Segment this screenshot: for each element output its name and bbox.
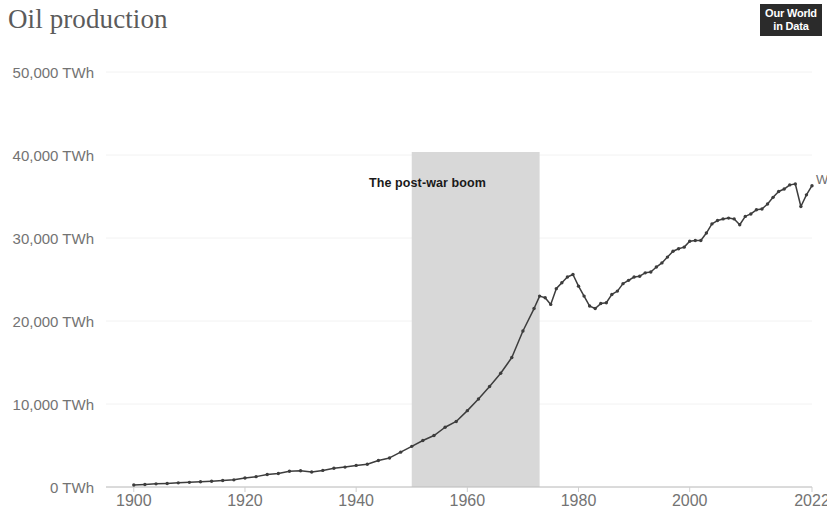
annotation-post-war-boom-label: The post-war boom bbox=[369, 176, 486, 190]
y-axis-label: 30,000 TWh bbox=[13, 230, 94, 247]
x-axis-label: 1960 bbox=[450, 492, 486, 510]
x-axis-label: 1900 bbox=[116, 492, 152, 510]
x-axis-label: 1940 bbox=[338, 492, 374, 510]
chart-page: Oil production Our World in Data 0 TWh10… bbox=[0, 0, 827, 515]
y-axis-label: 50,000 TWh bbox=[13, 64, 94, 81]
x-axis-label: 2000 bbox=[672, 492, 708, 510]
y-axis-label: 40,000 TWh bbox=[13, 147, 94, 164]
x-axis-label: 2022 bbox=[794, 492, 827, 510]
series-label-world: World bbox=[816, 172, 827, 187]
line-chart-canvas bbox=[0, 0, 827, 515]
x-axis-label: 1920 bbox=[227, 492, 263, 510]
y-axis-label: 0 TWh bbox=[50, 479, 94, 496]
y-axis-label: 20,000 TWh bbox=[13, 313, 94, 330]
x-axis-label: 1980 bbox=[561, 492, 597, 510]
y-axis-label: 10,000 TWh bbox=[13, 396, 94, 413]
